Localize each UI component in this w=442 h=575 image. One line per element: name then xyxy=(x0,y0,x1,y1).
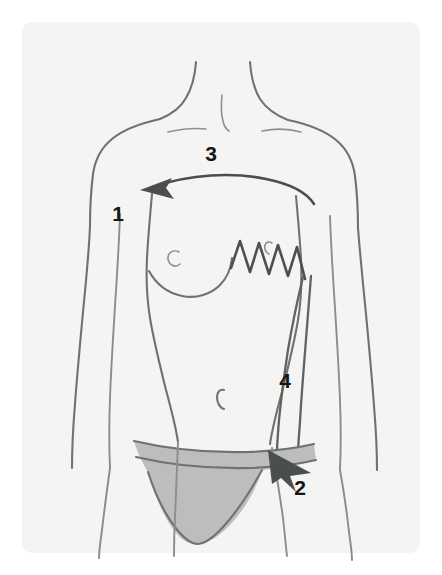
label-1: 1 xyxy=(112,202,124,225)
label-3: 3 xyxy=(205,142,217,165)
torso-illustration: 1 2 3 4 xyxy=(0,0,442,575)
label-4: 4 xyxy=(279,369,291,392)
figure-panel: 1 2 3 4 xyxy=(0,0,442,575)
label-2: 2 xyxy=(294,476,306,499)
